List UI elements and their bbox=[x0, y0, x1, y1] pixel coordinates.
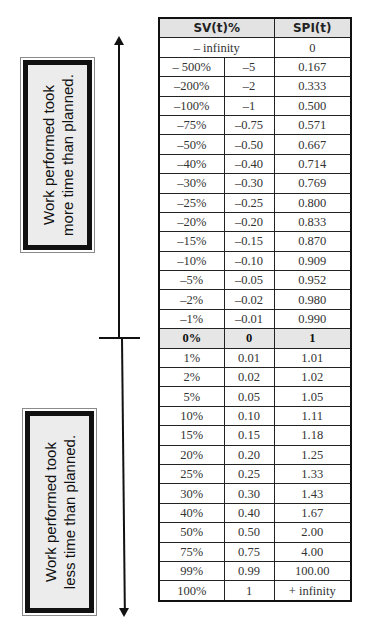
sv-pct-cell: 2% bbox=[159, 368, 224, 387]
table-body: – infinity0– 500%–50.167–200%–20.333–100… bbox=[159, 38, 351, 601]
table-row: –30%–0.300.769 bbox=[159, 174, 351, 193]
sv-ratio-cell: 0 bbox=[224, 329, 274, 348]
spi-cell: 0.990 bbox=[274, 309, 351, 328]
sv-ratio-cell: 0.75 bbox=[224, 542, 274, 561]
sv-ratio-cell: 0.30 bbox=[224, 484, 274, 503]
sv-ratio-cell: –0.01 bbox=[224, 309, 274, 328]
sv-pct-cell: 15% bbox=[159, 426, 224, 445]
sv-pct-cell: –200% bbox=[159, 77, 224, 96]
less-time-label-line2: less time than planned. bbox=[60, 435, 79, 589]
table-row: –100%–10.500 bbox=[159, 96, 351, 115]
table-row: –20%–0.200.833 bbox=[159, 212, 351, 231]
sv-ratio-cell: –0.02 bbox=[224, 290, 274, 309]
axis-line-upper bbox=[118, 44, 120, 338]
sv-pct-cell: – infinity bbox=[159, 38, 274, 57]
spi-cell: 0.980 bbox=[274, 290, 351, 309]
less-time-label-box: Work performed took less time than plann… bbox=[22, 408, 97, 616]
sv-ratio-cell: –1 bbox=[224, 96, 274, 115]
table-row: 1%0.011.01 bbox=[159, 348, 351, 367]
table-row: 20%0.201.25 bbox=[159, 445, 351, 464]
table-row: 25%0.251.33 bbox=[159, 464, 351, 483]
spi-cell: 100.00 bbox=[274, 561, 351, 580]
table-row: – infinity0 bbox=[159, 38, 351, 57]
spi-cell: 4.00 bbox=[274, 542, 351, 561]
sv-pct-cell: 20% bbox=[159, 445, 224, 464]
sv-pct-cell: –25% bbox=[159, 193, 224, 212]
sv-pct-cell: –5% bbox=[159, 271, 224, 290]
sv-ratio-cell: 0.15 bbox=[224, 426, 274, 445]
spi-cell: 0.333 bbox=[274, 77, 351, 96]
less-time-label-line1: Work performed took bbox=[41, 435, 60, 589]
spi-cell: + infinity bbox=[274, 581, 351, 601]
sv-pct-cell: 100% bbox=[159, 581, 224, 601]
more-time-label: Work performed took more time than plann… bbox=[39, 74, 77, 236]
table-row: 15%0.151.18 bbox=[159, 426, 351, 445]
sv-pct-cell: – 500% bbox=[159, 57, 224, 76]
sv-pct-cell: 1% bbox=[159, 348, 224, 367]
more-time-label-box: Work performed took more time than plann… bbox=[20, 57, 95, 253]
spi-cell: 0 bbox=[274, 38, 351, 57]
sv-ratio-cell: –0.25 bbox=[224, 193, 274, 212]
sv-pct-cell: –1% bbox=[159, 309, 224, 328]
spi-cell: 1.25 bbox=[274, 445, 351, 464]
spi-cell: 0.870 bbox=[274, 232, 351, 251]
sv-ratio-cell: –0.20 bbox=[224, 212, 274, 231]
more-time-label-line1: Work performed took bbox=[39, 74, 58, 236]
table-row: –15%–0.150.870 bbox=[159, 232, 351, 251]
table-row: –40%–0.400.714 bbox=[159, 154, 351, 173]
spi-cell: 1.43 bbox=[274, 484, 351, 503]
sv-ratio-cell: 0.10 bbox=[224, 406, 274, 425]
sv-ratio-cell: –0.10 bbox=[224, 251, 274, 270]
sv-pct-cell: –15% bbox=[159, 232, 224, 251]
table-row: 10%0.101.11 bbox=[159, 406, 351, 425]
less-time-label: Work performed took less time than plann… bbox=[41, 435, 79, 589]
table-row: – 500%–50.167 bbox=[159, 57, 351, 76]
table-row: 0%01 bbox=[159, 329, 351, 348]
spi-cell: 0.909 bbox=[274, 251, 351, 270]
sv-pct-cell: 30% bbox=[159, 484, 224, 503]
spi-cell: 0.667 bbox=[274, 135, 351, 154]
spi-cell: 1 bbox=[274, 329, 351, 348]
table-header-row: SV(t)% SPI(t) bbox=[159, 18, 351, 38]
table-row: 40%0.401.67 bbox=[159, 503, 351, 522]
table-row: –200%–20.333 bbox=[159, 77, 351, 96]
sv-pct-cell: –20% bbox=[159, 212, 224, 231]
table-row: –1%–0.010.990 bbox=[159, 309, 351, 328]
sv-pct-cell: –40% bbox=[159, 154, 224, 173]
spi-cell: 2.00 bbox=[274, 523, 351, 542]
sv-ratio-cell: 0.40 bbox=[224, 503, 274, 522]
sv-ratio-cell: 0.99 bbox=[224, 561, 274, 580]
sv-ratio-cell: 0.50 bbox=[224, 523, 274, 542]
zero-crossbar bbox=[99, 337, 140, 339]
sv-pct-cell: 5% bbox=[159, 387, 224, 406]
sv-pct-cell: –75% bbox=[159, 115, 224, 134]
sv-ratio-cell: –0.05 bbox=[224, 271, 274, 290]
sv-pct-cell: 75% bbox=[159, 542, 224, 561]
table-row: –50%–0.500.667 bbox=[159, 135, 351, 154]
sv-ratio-cell: 1 bbox=[224, 581, 274, 601]
table-row: 5%0.051.05 bbox=[159, 387, 351, 406]
less-time-label-inner: Work performed took less time than plann… bbox=[25, 411, 94, 613]
sv-pct-cell: –100% bbox=[159, 96, 224, 115]
more-time-label-line2: more time than planned. bbox=[58, 74, 77, 236]
spi-cell: 1.01 bbox=[274, 348, 351, 367]
spi-cell: 1.67 bbox=[274, 503, 351, 522]
sv-ratio-cell: 0.05 bbox=[224, 387, 274, 406]
spi-cell: 0.167 bbox=[274, 57, 351, 76]
axis-line-lower bbox=[121, 338, 126, 609]
spi-cell: 0.800 bbox=[274, 193, 351, 212]
sv-ratio-cell: –0.15 bbox=[224, 232, 274, 251]
table-row: 30%0.301.43 bbox=[159, 484, 351, 503]
spi-cell: 0.769 bbox=[274, 174, 351, 193]
sv-pct-cell: 10% bbox=[159, 406, 224, 425]
header-spi: SPI(t) bbox=[274, 18, 351, 38]
spi-cell: 1.02 bbox=[274, 368, 351, 387]
table-row: 2%0.021.02 bbox=[159, 368, 351, 387]
sv-ratio-cell: –0.40 bbox=[224, 154, 274, 173]
sv-pct-cell: –10% bbox=[159, 251, 224, 270]
sv-ratio-cell: –0.75 bbox=[224, 115, 274, 134]
table-row: 100%1+ infinity bbox=[159, 581, 351, 601]
table-row: 50%0.502.00 bbox=[159, 523, 351, 542]
sv-spi-table: SV(t)% SPI(t) – infinity0– 500%–50.167–2… bbox=[158, 17, 352, 602]
spi-cell: 0.833 bbox=[274, 212, 351, 231]
